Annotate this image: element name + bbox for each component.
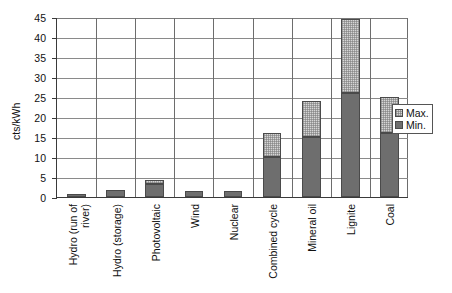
y-tick-label-30: 30 xyxy=(0,73,46,83)
y-tick-mark-35 xyxy=(52,58,57,59)
gridline-x-8 xyxy=(370,18,371,197)
bar-segment-min xyxy=(106,190,125,197)
bar-6 xyxy=(302,101,321,197)
x-label-text-5: Combined cycle xyxy=(268,204,280,290)
legend-swatch-max-icon xyxy=(395,109,403,117)
x-label-text-3: Wind xyxy=(190,204,202,290)
gridline-x-2 xyxy=(135,18,136,197)
y-tick-label-40: 40 xyxy=(0,33,46,43)
y-tick-label-5: 5 xyxy=(0,173,46,183)
y-tick-label-45: 45 xyxy=(0,13,46,23)
bar-1 xyxy=(106,190,125,197)
plot-area xyxy=(56,18,408,198)
gridline-x-5 xyxy=(253,18,254,197)
x-label-text-6: Mineral oil xyxy=(307,204,319,290)
y-tick-mark-40 xyxy=(52,38,57,39)
bar-segment-min xyxy=(341,93,360,197)
x-axis-category-labels: Hydro (run ofriver)Hydro (storage)Photov… xyxy=(56,200,408,293)
bar-chart: cts/kWh 051015202530354045 Hydro (run of… xyxy=(0,0,452,293)
legend-item-min: Min. xyxy=(395,119,429,131)
bar-segment-max xyxy=(302,101,321,137)
chart-legend: Max. Min. xyxy=(392,104,433,134)
y-tick-mark-10 xyxy=(52,158,57,159)
bar-4 xyxy=(224,191,243,197)
bar-segment-min xyxy=(380,133,399,197)
y-tick-label-20: 20 xyxy=(0,113,46,123)
bar-segment-min xyxy=(263,157,282,197)
x-label-text-7: Lignite xyxy=(347,204,359,290)
legend-label-max: Max. xyxy=(406,108,429,119)
gridline-x-3 xyxy=(174,18,175,197)
x-label-text-0: Hydro (run ofriver) xyxy=(67,204,90,290)
y-tick-label-0: 0 xyxy=(0,193,46,203)
bar-segment-min xyxy=(224,191,243,197)
bar-segment-min xyxy=(302,137,321,197)
bar-7 xyxy=(341,19,360,197)
y-tick-mark-30 xyxy=(52,78,57,79)
bar-segment-max xyxy=(263,133,282,157)
bar-3 xyxy=(185,191,204,197)
y-tick-mark-5 xyxy=(52,178,57,179)
bar-2 xyxy=(145,180,164,197)
bar-5 xyxy=(263,133,282,197)
legend-item-max: Max. xyxy=(395,107,429,119)
x-label-text-8: Coal xyxy=(386,204,398,290)
bar-segment-min xyxy=(185,191,204,197)
legend-swatch-min-icon xyxy=(395,121,403,129)
y-tick-mark-20 xyxy=(52,118,57,119)
gridline-x-7 xyxy=(331,18,332,197)
gridline-x-1 xyxy=(96,18,97,197)
x-label-text-1: Hydro (storage) xyxy=(112,204,124,290)
gridline-x-4 xyxy=(213,18,214,197)
y-tick-label-15: 15 xyxy=(0,133,46,143)
bar-segment-min xyxy=(67,194,86,197)
y-tick-mark-45 xyxy=(52,18,57,19)
bar-segment-max xyxy=(341,19,360,93)
y-tick-label-25: 25 xyxy=(0,93,46,103)
y-tick-mark-15 xyxy=(52,138,57,139)
gridline-x-6 xyxy=(292,18,293,197)
legend-label-min: Min. xyxy=(406,120,426,131)
y-tick-mark-0 xyxy=(52,198,57,199)
y-tick-mark-25 xyxy=(52,98,57,99)
bar-segment-min xyxy=(145,184,164,197)
y-tick-label-35: 35 xyxy=(0,53,46,63)
bar-0 xyxy=(67,194,86,197)
x-label-text-2: Photovoltaic xyxy=(151,204,163,290)
x-label-text-4: Nuclear xyxy=(229,204,241,290)
y-tick-label-10: 10 xyxy=(0,153,46,163)
